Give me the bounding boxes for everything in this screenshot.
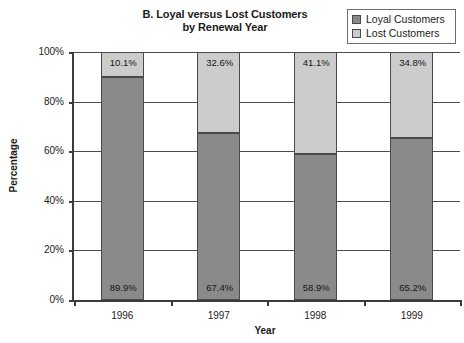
y-axis-tick-mark xyxy=(69,250,74,252)
bar-value-label-loyal: 67.4% xyxy=(198,282,241,293)
chart-title-line-2: by Renewal Year xyxy=(110,21,340,34)
chart-title-line-1: B. Loyal versus Lost Customers xyxy=(142,8,307,20)
x-axis-tick-mark xyxy=(74,300,76,306)
y-axis-tick-label: 80% xyxy=(18,97,64,107)
y-axis-tick-label: 0% xyxy=(18,295,64,305)
x-axis-tick-label: 1998 xyxy=(275,310,355,321)
x-axis-tick-label: 1996 xyxy=(82,310,162,321)
bar-value-label-lost: 32.6% xyxy=(198,57,241,68)
bar-segment-lost[interactable]: 34.8% xyxy=(390,52,433,138)
bar-group[interactable]: 89.9%10.1% xyxy=(101,52,144,300)
bar-segment-loyal[interactable]: 58.9% xyxy=(294,154,337,300)
legend-label-lost: Lost Customers xyxy=(366,27,440,39)
bar-segment-loyal[interactable]: 65.2% xyxy=(390,138,433,300)
x-axis-tick-mark xyxy=(267,300,269,306)
bar-value-label-lost: 34.8% xyxy=(391,57,434,68)
bar-group[interactable]: 65.2%34.8% xyxy=(390,52,433,300)
plot-area: 0%20%40%60%80%100% 1996199719981999 89.9… xyxy=(72,52,460,302)
x-axis-tick-mark xyxy=(171,300,173,306)
legend-item-lost-customers[interactable]: Lost Customers xyxy=(352,26,452,40)
bar-value-label-loyal: 65.2% xyxy=(391,282,434,293)
y-axis-tick-label: 40% xyxy=(18,196,64,206)
bar-group[interactable]: 58.9%41.1% xyxy=(294,52,337,300)
bar-group[interactable]: 67.4%32.6% xyxy=(197,52,240,300)
bar-value-label-loyal: 89.9% xyxy=(102,282,145,293)
bar-segment-lost[interactable]: 10.1% xyxy=(101,52,144,77)
y-axis-tick-mark xyxy=(69,52,74,54)
legend-swatch-icon-lost xyxy=(352,29,361,38)
y-axis-title: Percentage xyxy=(8,126,19,206)
legend-label-loyal: Loyal Customers xyxy=(366,13,445,25)
x-axis-tick-label: 1997 xyxy=(179,310,259,321)
x-axis-tick-mark xyxy=(460,300,462,306)
chart-title: B. Loyal versus Lost Customers by Renewa… xyxy=(110,8,340,34)
bar-segment-lost[interactable]: 41.1% xyxy=(294,52,337,154)
legend-swatch-icon-loyal xyxy=(352,15,361,24)
legend-item-loyal-customers[interactable]: Loyal Customers xyxy=(352,12,452,26)
y-axis-tick-label: 20% xyxy=(18,245,64,255)
chart-figure: B. Loyal versus Lost Customers by Renewa… xyxy=(0,0,464,343)
bar-segment-lost[interactable]: 32.6% xyxy=(197,52,240,133)
x-axis-title: Year xyxy=(72,325,458,336)
y-axis-tick-mark xyxy=(69,201,74,203)
y-axis-tick-mark xyxy=(69,151,74,153)
x-axis-tick-label: 1999 xyxy=(372,310,452,321)
x-axis-tick-mark xyxy=(364,300,366,306)
y-axis-tick-label: 60% xyxy=(18,146,64,156)
chart-legend: Loyal Customers Lost Customers xyxy=(347,9,456,44)
bar-value-label-loyal: 58.9% xyxy=(295,282,338,293)
bar-value-label-lost: 41.1% xyxy=(295,57,338,68)
bar-value-label-lost: 10.1% xyxy=(102,57,145,68)
bar-segment-loyal[interactable]: 89.9% xyxy=(101,77,144,300)
y-axis-tick-label: 100% xyxy=(18,47,64,57)
y-axis-tick-mark xyxy=(69,102,74,104)
bar-segment-loyal[interactable]: 67.4% xyxy=(197,133,240,300)
